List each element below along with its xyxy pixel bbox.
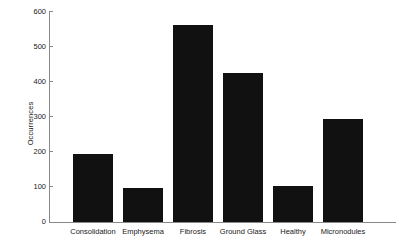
bar-chart-figure: Occurrences 0100200300400500600 Consolid… <box>0 0 413 247</box>
y-tick: 200 <box>0 147 52 157</box>
y-tick-label: 600 <box>33 7 46 17</box>
y-tick: 600 <box>0 7 52 17</box>
bar <box>323 119 363 222</box>
bar <box>173 25 213 222</box>
y-tick-mark <box>50 81 53 82</box>
y-tick-mark <box>50 116 53 117</box>
y-tick-label: 200 <box>33 147 46 157</box>
y-tick: 0 <box>0 217 52 227</box>
y-tick-mark <box>50 186 53 187</box>
y-tick-mark <box>50 151 53 152</box>
y-tick-label: 0 <box>42 217 46 227</box>
y-tick-label: 500 <box>33 42 46 52</box>
y-tick-label: 300 <box>33 112 46 122</box>
x-tick-label: Micronodules <box>303 226 383 237</box>
bar <box>123 188 163 222</box>
x-axis-line <box>49 222 396 223</box>
bar <box>223 73 263 222</box>
y-tick-label: 400 <box>33 77 46 87</box>
y-tick: 300 <box>0 112 52 122</box>
y-axis-label: Occurrences <box>24 0 38 247</box>
y-tick-mark <box>50 11 53 12</box>
bar <box>73 154 113 222</box>
y-tick: 500 <box>0 42 52 52</box>
y-tick-label: 100 <box>33 182 46 192</box>
y-tick-mark <box>50 46 53 47</box>
y-tick: 100 <box>0 182 52 192</box>
y-tick-mark <box>50 222 53 223</box>
bar <box>273 186 313 222</box>
y-tick: 400 <box>0 77 52 87</box>
